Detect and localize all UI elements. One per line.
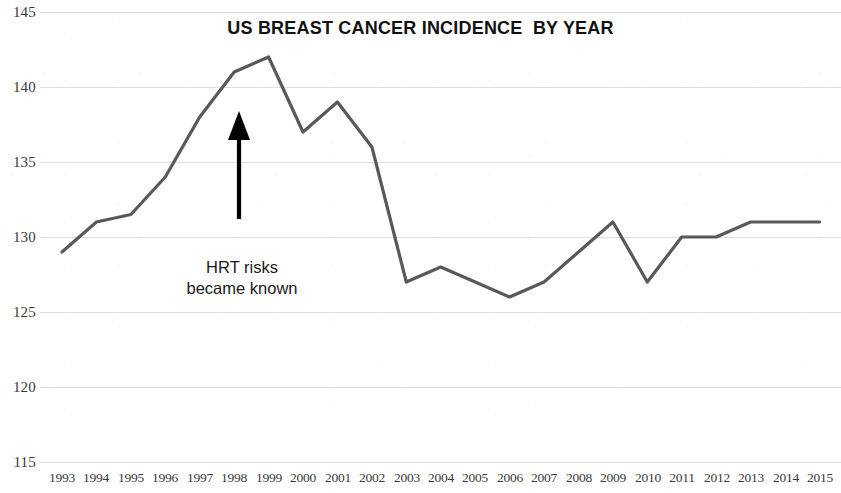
annotation-line-2: became known [157,278,327,299]
chart-container: 145 140 135 130 125 120 115 1993 1994 19… [0,0,841,493]
annotation-line-1: HRT risks [157,257,327,278]
hrt-risks-annotation: HRT risks became known [157,257,327,299]
plot-area: 145 140 135 130 125 120 115 1993 1994 19… [0,0,841,493]
annotation-arrow-layer [0,0,841,493]
up-arrow-icon [228,111,250,219]
chart-title: US BREAST CANCER INCIDENCE BY YEAR [0,18,841,39]
